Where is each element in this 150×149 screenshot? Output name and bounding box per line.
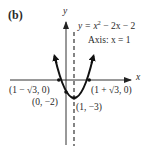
panel-label: (b) (8, 8, 23, 22)
left-curve-arrow-icon (55, 56, 57, 63)
point-vertex (72, 96, 76, 100)
right-curve-arrow-icon (92, 56, 94, 63)
point-right-root (87, 78, 91, 82)
right-root-label: (1 + √3, 0) (91, 85, 132, 96)
equation-suffix: − 2x − 2 (101, 21, 136, 31)
left-root-label: (1 − √3, 0) (9, 85, 50, 96)
point-left-root (57, 78, 61, 82)
y-axis-label: y (62, 6, 68, 16)
x-axis-label: x (135, 72, 141, 82)
parabola-graph: (b) x y y = x2 − 2x − 2 Axis: x = 1 (1 −… (0, 0, 150, 149)
vertex-label: (1, −3) (76, 102, 102, 113)
axis-of-symmetry-label: Axis: x = 1 (88, 35, 131, 45)
equation-label: y = x2 − 2x − 2 (77, 19, 136, 31)
y-intercept-label: (0, −2) (32, 97, 58, 108)
equation-prefix: y = x (77, 21, 98, 31)
point-y-intercept (64, 90, 68, 94)
